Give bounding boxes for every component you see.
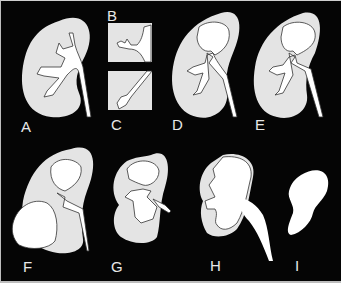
label-e: E <box>255 117 265 132</box>
kidney-diagram: .par { fill: #e4e4e4; } .cs { fill: #fff… <box>0 0 341 283</box>
kidney-h <box>200 154 273 261</box>
label-c: C <box>111 117 122 132</box>
panel-c <box>108 71 152 110</box>
kidney-e <box>254 13 323 118</box>
label-d: D <box>172 117 183 132</box>
label-a: A <box>21 119 31 134</box>
kidney-g <box>113 153 171 243</box>
label-g: G <box>111 259 123 274</box>
kidney-f <box>12 148 93 254</box>
label-i: I <box>295 258 299 273</box>
panel-b <box>108 23 152 62</box>
kidney-illustrations: .par { fill: #e4e4e4; } .cs { fill: #fff… <box>1 1 341 283</box>
label-h: H <box>210 258 221 273</box>
kidney-i <box>288 170 328 235</box>
kidney-a <box>22 18 91 118</box>
label-b: B <box>107 8 117 23</box>
label-f: F <box>23 259 32 274</box>
kidney-d <box>172 12 239 118</box>
